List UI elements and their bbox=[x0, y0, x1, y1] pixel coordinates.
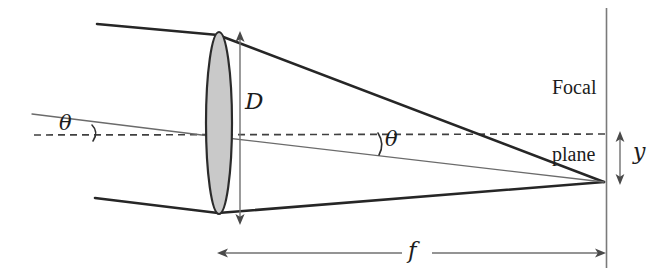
focal-length-label: f bbox=[408, 238, 417, 264]
optical-axis-dashed bbox=[34, 134, 607, 135]
angle-label-incoming: θ bbox=[59, 112, 72, 136]
aperture-diameter-label: D bbox=[245, 89, 263, 115]
focal-plane-label: Focal plane bbox=[552, 31, 596, 210]
image-height-arrow bbox=[616, 131, 625, 185]
focal-plane-label-line-1: Focal bbox=[552, 76, 596, 98]
angle-label-focal: θ bbox=[385, 128, 398, 152]
image-height-label: y bbox=[633, 140, 645, 165]
aperture-diameter-arrow bbox=[235, 31, 244, 225]
angle-arc-focal bbox=[378, 133, 382, 155]
optics-ray-diagram: θ θ D y f Focal plane bbox=[0, 0, 670, 275]
focal-plane-label-line-2: plane bbox=[552, 143, 596, 165]
biconvex-lens bbox=[206, 32, 232, 214]
lower-marginal-ray bbox=[95, 182, 604, 213]
angle-arc-incoming bbox=[92, 125, 96, 141]
upper-marginal-ray bbox=[97, 24, 604, 182]
